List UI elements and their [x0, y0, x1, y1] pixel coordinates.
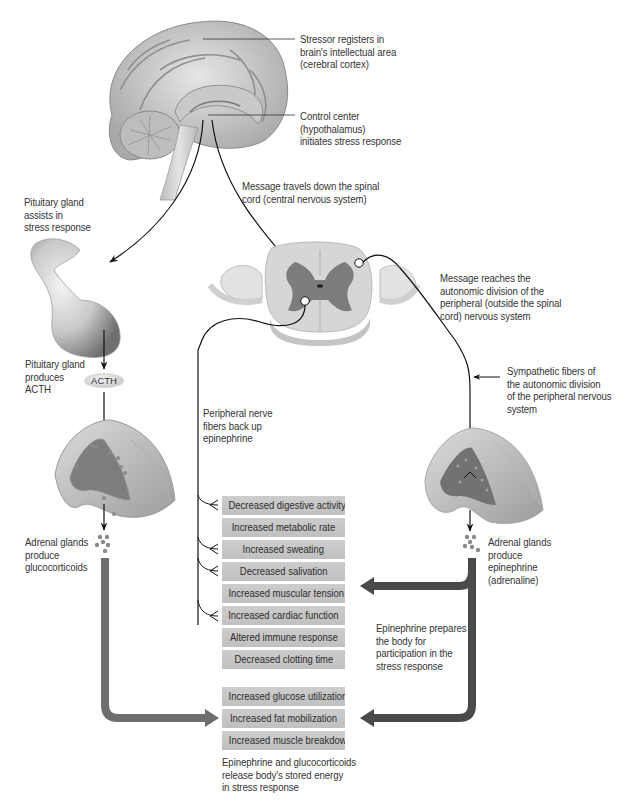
effect-box: Decreased digestive activity [222, 496, 345, 515]
label-message-spinal-cord: Message travels down the spinalcord (cen… [242, 180, 379, 205]
left-adrenal-gland-illustration [55, 420, 175, 517]
effect-box: Decreased clotting time [222, 650, 345, 669]
epinephrine-branch-arrow [372, 572, 472, 586]
label-pituitary-produces-acth: Pituitary glandproducesACTH [25, 358, 85, 396]
label-pituitary-assists: Pituitary glandassists instress response [24, 196, 91, 234]
pituitary-gland-illustration [31, 239, 120, 358]
label-adrenal-epinephrine: Adrenal glandsproduceepinephrine(adrenal… [488, 536, 551, 586]
effect-box: Decreased salivation [222, 562, 345, 581]
energy-effect-box: Increased glucose utilization [222, 687, 345, 706]
label-sympathetic-fibers: Sympathetic fibers ofthe autonomic divis… [507, 365, 612, 415]
effect-box: Altered immune response [222, 628, 345, 647]
label-epinephrine-prepares: Epinephrine preparesthe body forparticip… [376, 622, 467, 672]
nerve-branches [198, 495, 218, 621]
energy-effect-box: Increased fat mobilization [222, 709, 345, 728]
effect-box: Increased cardiac function [222, 606, 345, 625]
effect-box: Increased sweating [222, 540, 345, 559]
energy-effect-box: Increased muscle breakdown [222, 731, 345, 750]
right-adrenal-gland-illustration [425, 428, 543, 524]
label-control-center-hypothalamus: Control center(hypothalamus)initiates st… [300, 110, 401, 148]
epinephrine-dots [463, 535, 480, 552]
label-peripheral-nerve-fibers: Peripheral nervefibers back upepinephrin… [203, 407, 272, 445]
label-adrenal-glucocorticoids: Adrenal glandsproduceglucocorticoids [25, 536, 88, 574]
effect-box: Increased muscular tension [222, 584, 345, 603]
brain-illustration [109, 21, 295, 200]
glucocorticoid-dots [95, 535, 110, 553]
effect-box: Increased metabolic rate [222, 518, 345, 537]
glucocorticoid-thick-arrow [105, 558, 207, 718]
label-stressor-cerebral-cortex: Stressor registers inbrain's intellectua… [300, 33, 396, 71]
label-message-autonomic: Message reaches theautonomic division of… [440, 272, 561, 322]
label-energy-release: Epinephrine and glucocorticoidsrelease b… [222, 756, 356, 794]
clipped-figure-caption [0, 802, 626, 808]
acth-badge: ACTH [84, 373, 124, 388]
